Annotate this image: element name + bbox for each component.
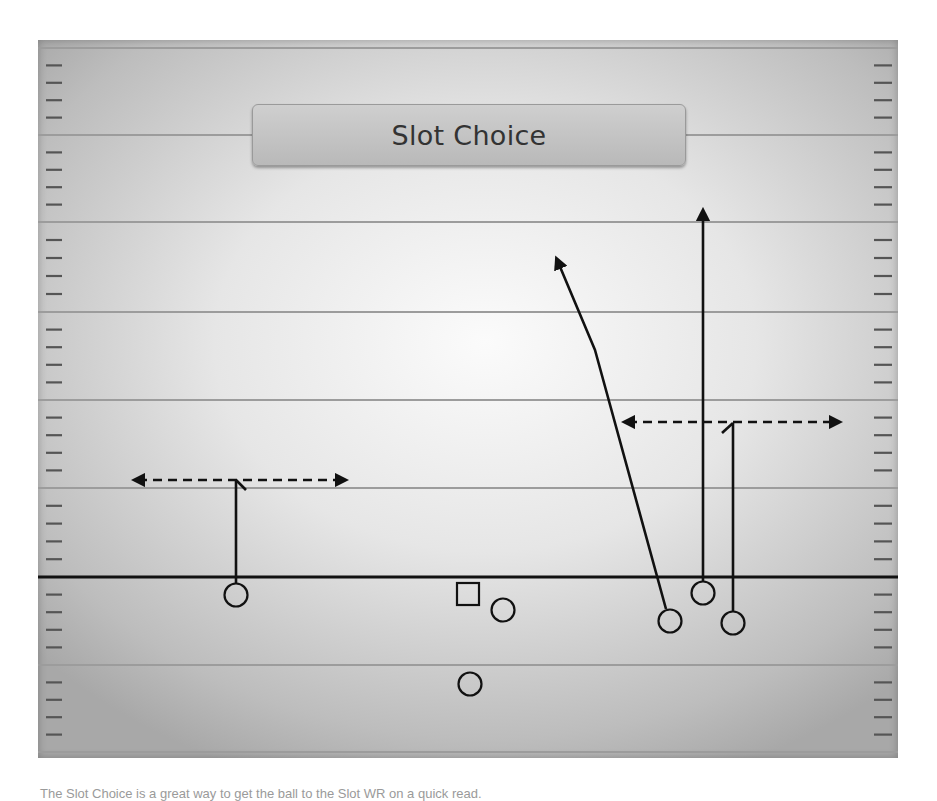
route-inside-seam [558, 262, 666, 609]
routes [138, 214, 836, 611]
players [225, 582, 745, 696]
caption-text: The Slot Choice is a great way to get th… [40, 786, 482, 801]
player-qb-adjacent [492, 599, 515, 622]
play-title: Slot Choice [391, 120, 546, 151]
player-rb [459, 673, 482, 696]
player-center [457, 583, 479, 605]
player-wr-left [225, 584, 248, 607]
player-slot-wr [692, 582, 715, 605]
title-banner: Slot Choice [252, 104, 686, 166]
player-slot-inside [659, 610, 682, 633]
player-wr-right [722, 612, 745, 635]
route-break-mark [722, 423, 733, 433]
